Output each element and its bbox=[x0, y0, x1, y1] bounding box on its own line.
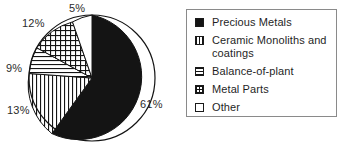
vertical-lines-swatch-icon bbox=[195, 36, 204, 45]
cross-hatch-swatch-icon bbox=[195, 85, 204, 94]
legend-item-label: Other bbox=[212, 101, 240, 114]
legend-item-label: Metal Parts bbox=[212, 83, 269, 96]
legend-item-label: Balance-of-plant bbox=[212, 65, 294, 78]
pie-label-metal-parts: 12% bbox=[22, 17, 45, 29]
pie-label-balance-of-plant: 9% bbox=[6, 62, 22, 74]
pie-chart-area: 61% 13% 9% 12% 5% bbox=[0, 0, 185, 145]
legend-item-ceramic-monoliths: Ceramic Monoliths and coatings bbox=[195, 34, 332, 60]
legend-item-label: Precious Metals bbox=[212, 16, 292, 29]
pie-label-other: 5% bbox=[69, 2, 85, 14]
legend-item-label: Ceramic Monoliths and coatings bbox=[212, 34, 332, 60]
legend-item-other: Other bbox=[195, 101, 332, 114]
legend-item-precious-metals: Precious Metals bbox=[195, 16, 332, 29]
legend-item-balance-of-plant: Balance-of-plant bbox=[195, 65, 332, 78]
solid-black-swatch-icon bbox=[195, 18, 204, 27]
legend-item-list: Precious Metals Ceramic Monoliths and co… bbox=[195, 16, 332, 119]
legend: Precious Metals Ceramic Monoliths and co… bbox=[186, 9, 337, 117]
pie-label-ceramic-monoliths: 13% bbox=[7, 104, 30, 116]
pie-label-precious-metals: 61% bbox=[140, 98, 163, 110]
empty-swatch-icon bbox=[195, 103, 204, 112]
legend-item-metal-parts: Metal Parts bbox=[195, 83, 332, 96]
horizontal-lines-swatch-icon bbox=[195, 67, 204, 76]
